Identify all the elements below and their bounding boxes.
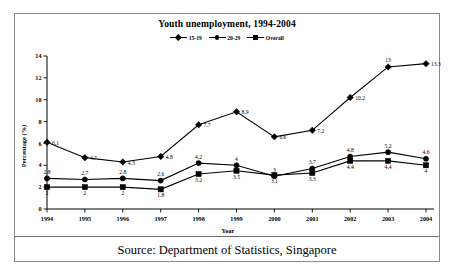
chart-panel: Youth unemployment, 1994-2004 15-19 20-2…: [15, 14, 439, 237]
data-point-marker: [196, 161, 201, 166]
legend-item-15-19: 15-19: [170, 34, 202, 41]
data-point-label: 3.3: [309, 176, 316, 182]
data-point-marker: [234, 168, 239, 173]
data-point-label: 3.2: [195, 177, 202, 183]
y-tick-label: 14: [35, 52, 41, 59]
chart-data-labels: 6.14.74.34.87.78.96.67.210.21313.32.82.7…: [44, 57, 441, 198]
data-point-marker: [233, 108, 240, 115]
data-point-marker: [82, 154, 89, 161]
data-point-marker: [423, 60, 430, 67]
data-point-marker: [44, 185, 49, 190]
y-tick-label: 0: [38, 205, 41, 212]
y-tick-label: 2: [38, 183, 41, 190]
circle-marker-icon: [215, 35, 220, 40]
data-point-marker: [44, 139, 51, 146]
source-caption: Source: Department of Statistics, Singap…: [15, 238, 439, 262]
data-point-marker: [120, 159, 127, 166]
data-point-marker: [158, 187, 163, 192]
data-point-marker: [310, 170, 315, 175]
data-point-label: 2.7: [81, 170, 88, 176]
x-tick-label: 1999: [230, 215, 242, 222]
data-point-label: 2: [46, 190, 49, 196]
y-tick-label: 6: [38, 140, 41, 147]
data-point-label: 3.1: [271, 178, 278, 184]
y-tick-label: 12: [35, 74, 41, 81]
data-point-label: 3.7: [309, 159, 316, 165]
figure-frame: Youth unemployment, 1994-2004 15-19 20-2…: [14, 13, 440, 262]
data-point-label: 10.2: [355, 95, 365, 101]
legend-line-icon: [170, 34, 187, 41]
data-point-marker: [234, 163, 239, 168]
y-tick-label: 4: [38, 161, 41, 168]
x-tick-label: 2002: [344, 215, 356, 222]
data-point-marker: [158, 178, 163, 183]
data-point-label: 6.6: [279, 134, 286, 140]
chart-title: Youth unemployment, 1994-2004: [15, 19, 439, 29]
x-tick-label: 1995: [79, 215, 91, 222]
data-point-label: 2.6: [157, 171, 164, 177]
x-axis-title: Year: [222, 227, 235, 234]
data-point-marker: [82, 177, 87, 182]
data-point-label: 5.2: [385, 143, 392, 149]
square-marker-icon: [253, 35, 258, 40]
data-point-marker: [120, 176, 125, 181]
data-point-label: 4: [235, 156, 238, 162]
legend-label: 15-19: [189, 35, 202, 41]
x-tick-label: 2000: [268, 215, 280, 222]
legend-line-icon: [209, 34, 226, 41]
data-point-label: 4.6: [423, 149, 430, 155]
legend-line-icon: [247, 34, 264, 41]
x-tick-label: 1998: [192, 215, 204, 222]
data-point-marker: [423, 163, 428, 168]
y-axis-title: Percentage (%): [20, 125, 28, 167]
data-point-marker: [348, 158, 353, 163]
data-point-marker: [120, 185, 125, 190]
data-point-label: 8.9: [242, 109, 249, 115]
data-point-marker: [196, 171, 201, 176]
data-point-label: 1.8: [157, 192, 164, 198]
data-point-label: 4.4: [385, 164, 392, 170]
data-point-label: 2.8: [44, 169, 51, 175]
data-point-marker: [272, 173, 277, 178]
data-point-label: 13.3: [431, 61, 441, 67]
data-point-label: 6.1: [52, 140, 59, 146]
legend-item-20-29: 20-29: [209, 34, 241, 41]
x-tick-label: 2003: [382, 215, 394, 222]
diamond-marker-icon: [175, 34, 181, 40]
y-tick-label: 8: [38, 118, 41, 125]
data-point-label: 4.4: [347, 164, 354, 170]
legend-item-overall: Overall: [247, 34, 284, 41]
data-point-label: 3: [273, 167, 276, 173]
data-point-label: 2: [84, 190, 87, 196]
x-tick-label: 1997: [155, 215, 167, 222]
x-tick-label: 2001: [306, 215, 318, 222]
data-point-label: 2.8: [119, 169, 126, 175]
chart-legend: 15-19 20-29 Overall: [15, 34, 439, 41]
y-tick-label: 10: [35, 96, 41, 103]
chart-svg: 0246810121419941995199619971998199920002…: [15, 50, 441, 237]
x-tick-label: 1996: [117, 215, 129, 222]
data-point-marker: [386, 150, 391, 155]
data-point-label: 13: [385, 57, 391, 63]
data-point-label: 4.8: [166, 154, 173, 160]
data-point-marker: [271, 134, 278, 141]
legend-label: 20-29: [227, 35, 240, 41]
data-point-marker: [423, 156, 428, 161]
data-point-label: 4.8: [347, 147, 354, 153]
data-point-marker: [82, 185, 87, 190]
data-point-label: 3.5: [233, 174, 240, 180]
data-point-marker: [44, 176, 49, 181]
plot-area: 0246810121419941995199619971998199920002…: [15, 50, 441, 237]
data-point-label: 7.7: [204, 122, 211, 128]
x-tick-label: 1994: [41, 215, 53, 222]
data-point-label: 4.7: [90, 155, 97, 161]
x-tick-label: 2004: [420, 215, 432, 222]
legend-label: Overall: [266, 35, 284, 41]
data-point-label: 2: [121, 190, 124, 196]
data-point-label: 7.2: [317, 128, 324, 134]
chart-series-group: [44, 60, 430, 192]
data-point-label: 4.3: [128, 160, 135, 166]
data-point-label: 4.2: [195, 154, 202, 160]
data-point-marker: [386, 158, 391, 163]
data-point-label: 4: [425, 168, 428, 174]
